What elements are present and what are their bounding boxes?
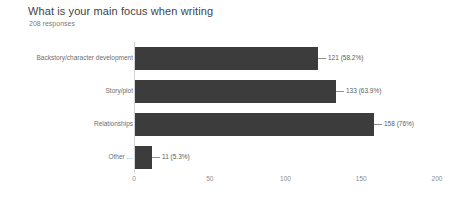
survey-bar-chart-card: What is your main focus when writing 208… (0, 0, 465, 200)
tick-label: 200 (432, 174, 443, 183)
chart-title: What is your main focus when writing (28, 4, 213, 18)
bar-row: Relationships 158 (76%) (0, 108, 465, 141)
category-label: Backstory/character development (3, 53, 133, 62)
bar-relationships[interactable] (135, 113, 374, 136)
bar-story-plot[interactable] (135, 80, 336, 103)
tick-mark (134, 170, 135, 173)
category-label: Other … (3, 152, 133, 161)
value-label: 158 (76%) (384, 119, 414, 128)
bar-backstory-character-development[interactable] (135, 47, 318, 70)
plot-area: Backstory/character development 121 (58.… (0, 34, 465, 200)
tick-label: 50 (206, 174, 213, 183)
bar-row: Backstory/character development 121 (58.… (0, 42, 465, 75)
leader-line (152, 157, 160, 158)
leader-line (374, 124, 382, 125)
leader-line (318, 58, 326, 59)
value-label: 133 (63.9%) (346, 86, 381, 95)
category-label: Story/plot (3, 86, 133, 95)
value-label: 121 (58.2%) (328, 53, 363, 62)
category-label: Relationships (3, 119, 133, 128)
value-axis: 0 50 100 150 200 (0, 170, 465, 190)
value-label: 11 (5.3%) (162, 152, 190, 161)
tick-label: 150 (356, 174, 367, 183)
leader-line (336, 91, 344, 92)
tick-label: 100 (280, 174, 291, 183)
response-count: 208 responses (29, 19, 75, 28)
bar-other[interactable] (135, 146, 152, 169)
bar-row: Story/plot 133 (63.9%) (0, 75, 465, 108)
tick-label: 0 (132, 174, 136, 183)
